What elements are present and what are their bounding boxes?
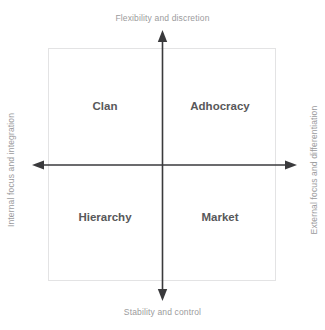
arrow-up-icon <box>158 30 167 42</box>
quadrant-label-market: Market <box>163 211 277 223</box>
quadrant-label-clan: Clan <box>48 100 162 112</box>
quadrant-label-hierarchy: Hierarchy <box>48 211 162 223</box>
arrow-right-icon <box>285 160 297 169</box>
competing-values-framework-diagram: Flexibility and discretion Stability and… <box>0 0 325 330</box>
arrow-left-icon <box>32 160 44 169</box>
axes-crosshair <box>0 0 325 330</box>
quadrant-label-adhocracy: Adhocracy <box>163 100 277 112</box>
arrow-down-icon <box>158 289 167 301</box>
